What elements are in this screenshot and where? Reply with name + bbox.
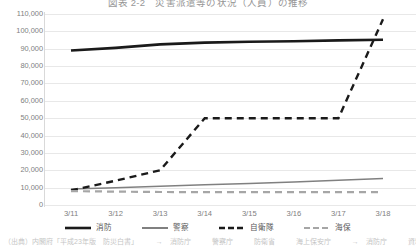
- legend-item-警察[interactable]: 警察: [142, 223, 189, 232]
- legend-label: 海保: [335, 223, 351, 232]
- chart-title: 図表 2-2 災害派遣等の状況（人員）の推移: [0, 0, 416, 8]
- chart-legend: 消防警察自衛隊海保: [0, 221, 416, 234]
- y-axis-tick-label: 70,000: [2, 79, 43, 87]
- y-axis-tick-label: 110,000: [2, 10, 43, 18]
- x-axis-labels: 3/113/123/133/143/153/163/173/18: [45, 208, 416, 222]
- x-axis-tick-label: 3/18: [376, 208, 391, 220]
- y-axis-tick-label: 90,000: [2, 45, 43, 53]
- y-axis-tick-label: 50,000: [2, 114, 43, 122]
- y-axis-tick-label: 20,000: [2, 166, 43, 174]
- x-axis-tick-label: 3/12: [108, 208, 123, 220]
- series-line-消防: [71, 40, 383, 51]
- series-layer: [45, 14, 416, 205]
- legend-item-海保[interactable]: 海保: [304, 223, 351, 232]
- y-axis-labels: 010,00020,00030,00040,00050,00060,00070,…: [0, 0, 43, 247]
- y-axis-tick-label: 60,000: [2, 97, 43, 105]
- chart-footnote: （出典）内閣府「平成23年版 防災白書」 → 消防庁 警察庁 防衛省 海上保安庁…: [0, 236, 416, 247]
- legend-swatch-icon: [65, 224, 91, 232]
- y-axis-tick-label: 10,000: [2, 184, 43, 192]
- x-axis-tick-label: 3/11: [64, 208, 78, 220]
- x-axis-tick-label: 3/17: [331, 208, 346, 220]
- x-axis-tick-label: 3/13: [153, 208, 168, 220]
- y-axis-tick-label: 40,000: [2, 132, 43, 140]
- chart-container: 図表 2-2 災害派遣等の状況（人員）の推移 010,00020,00030,0…: [0, 0, 416, 247]
- series-line-警察: [71, 179, 383, 189]
- legend-item-消防[interactable]: 消防: [65, 223, 112, 232]
- legend-swatch-icon: [304, 224, 330, 232]
- legend-label: 自衛隊: [250, 223, 274, 232]
- x-axis-tick-label: 3/15: [242, 208, 257, 220]
- y-axis-tick-label: 0: [2, 201, 43, 209]
- legend-label: 消防: [96, 223, 112, 232]
- x-axis-tick-label: 3/14: [197, 208, 212, 220]
- x-axis-tick-label: 3/16: [286, 208, 301, 220]
- legend-label: 警察: [173, 223, 189, 232]
- legend-item-自衛隊[interactable]: 自衛隊: [219, 223, 274, 232]
- gridline: [45, 205, 416, 206]
- y-axis-tick-label: 80,000: [2, 62, 43, 70]
- y-axis-tick-label: 100,000: [2, 27, 43, 35]
- y-axis-tick-label: 30,000: [2, 149, 43, 157]
- legend-swatch-icon: [219, 224, 245, 232]
- legend-swatch-icon: [142, 224, 168, 232]
- series-line-自衛隊: [71, 19, 383, 190]
- series-line-海保: [71, 191, 383, 192]
